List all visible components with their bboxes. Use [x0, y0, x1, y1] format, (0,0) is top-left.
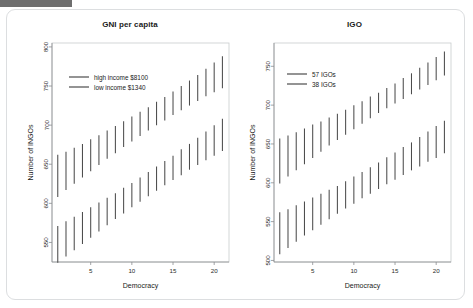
y-axis-tick-label: 750 — [43, 80, 50, 91]
x-axis-tick-label: 5 — [311, 267, 315, 274]
y-axis-tick-label: 800 — [43, 41, 50, 52]
title-bar-accent — [0, 0, 72, 7]
y-axis-tick-label: 650 — [265, 138, 272, 149]
x-axis-tick-label: 20 — [433, 267, 440, 274]
x-axis-tick-label: 5 — [89, 267, 93, 274]
legend-label: 57 IGOs — [312, 71, 336, 78]
x-axis-tick-label: 15 — [392, 267, 399, 274]
y-axis-tick-label: 750 — [265, 61, 272, 72]
y-axis-title: Number of INGOs — [249, 124, 256, 181]
legend-label: low income $1340 — [94, 84, 146, 91]
chart-panel-igo: IGO 5005506006507007505101520DemocracyNu… — [239, 10, 466, 301]
legend-label: 38 IGOs — [312, 81, 336, 88]
legend: 57 IGOs38 IGOs — [287, 71, 336, 88]
y-axis-tick-label: 500 — [265, 255, 272, 266]
figure-card: GNI per capita 5506006507007508005101520… — [6, 9, 465, 300]
chart-panel-gni-per-capita: GNI per capita 5506006507007508005101520… — [7, 10, 239, 301]
y-axis-tick-label: 550 — [265, 216, 272, 227]
series-ci-bars — [58, 119, 223, 263]
y-axis-tick-label: 700 — [43, 119, 50, 130]
plot-frame — [274, 43, 451, 262]
x-axis-tick-label: 20 — [211, 267, 218, 274]
y-axis-tick-label: 600 — [43, 198, 50, 209]
plot-area-gni: 5506006507007508005101520DemocracyNumber… — [7, 10, 239, 301]
y-axis-tick-label: 550 — [43, 237, 50, 248]
x-axis-tick-label: 15 — [170, 267, 177, 274]
y-axis-tick-label: 650 — [43, 159, 50, 170]
y-axis-tick-label: 600 — [265, 177, 272, 188]
legend: high income $8100low income $1340 — [69, 74, 148, 91]
x-axis-title: Democracy — [345, 282, 381, 290]
y-axis-title: Number of INGOs — [27, 124, 34, 181]
legend-label: high income $8100 — [94, 74, 148, 82]
plot-area-igo: 5005506006507007505101520DemocracyNumber… — [239, 10, 466, 301]
x-axis-tick-label: 10 — [128, 267, 135, 274]
y-axis-tick-label: 700 — [265, 99, 272, 110]
x-axis-tick-label: 10 — [350, 267, 357, 274]
x-axis-title: Democracy — [123, 282, 159, 290]
